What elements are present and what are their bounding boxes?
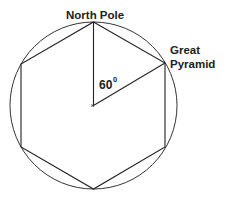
hexagon-circle-diagram: × North Pole Great Pyramid 60 0 [0,0,230,199]
angle-value: 60 [99,78,113,92]
label-pyramid: Pyramid [170,58,215,70]
label-north-pole: North Pole [66,9,124,21]
angle-degree-symbol: 0 [113,75,117,84]
center-mark: × [91,102,95,109]
label-great: Great [170,44,200,56]
